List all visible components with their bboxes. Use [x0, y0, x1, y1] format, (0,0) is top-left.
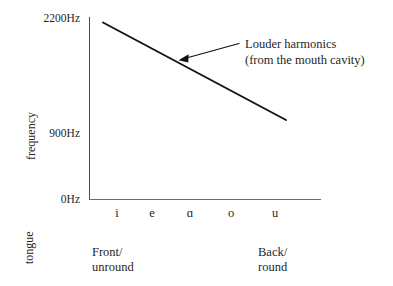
x-axis-right-endpoint-label-line1: Back/ — [258, 245, 287, 261]
annotation-label-line2: (from the mouth cavity) — [245, 52, 365, 68]
x-axis-left-endpoint-label-line2: unround — [92, 260, 134, 276]
x-tick-label-script-a: ɑ — [178, 206, 202, 221]
y-axis-title: frequency — [24, 112, 38, 160]
vowel-frequency-figure: 2200Hz 900Hz 0Hz frequency tongue i e ɑ … — [0, 0, 393, 286]
x-tick-label-i: i — [105, 206, 129, 221]
y-tick-label-2200: 2200Hz — [26, 12, 80, 26]
annotation-arrow — [179, 44, 240, 63]
x-tick-label-o: o — [219, 206, 243, 221]
annotation-label-line1: Louder harmonics — [245, 36, 336, 52]
x-axis-left-endpoint-label-line1: Front/ — [92, 245, 123, 261]
x-axis-right-endpoint-label-line2: round — [258, 260, 287, 276]
y-tick-label-0: 0Hz — [26, 193, 80, 207]
x-axis-title: tongue — [22, 231, 36, 264]
x-tick-label-e: e — [140, 206, 164, 221]
x-tick-label-u: u — [263, 206, 287, 221]
